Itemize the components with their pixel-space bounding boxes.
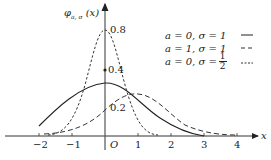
x-axis-label: x bbox=[261, 131, 267, 141]
chart-canvas bbox=[0, 0, 271, 160]
tick-label-m1: −1 bbox=[66, 140, 81, 150]
tick-label-3: 3 bbox=[201, 140, 207, 150]
legend-item-a0-s1: a = 0, σ = 1 bbox=[165, 29, 227, 42]
legend: a = 0, σ = 1 a = 1, σ = 1 a = 0, σ = 1 2 bbox=[165, 29, 227, 68]
tick-label-0-8: 0.8 bbox=[110, 25, 126, 35]
legend-item-a1-s1: a = 1, σ = 1 bbox=[165, 42, 227, 55]
curve-a1-s1 bbox=[44, 94, 237, 135]
curve-a0-s05 bbox=[48, 30, 158, 135]
tick-label-2: 2 bbox=[168, 140, 174, 150]
y-axis-label: φa, σ (x) bbox=[64, 8, 99, 20]
fraction-den: 2 bbox=[220, 62, 226, 71]
tick-label-m2: −2 bbox=[33, 140, 48, 150]
legend-row3-text: a = 0, σ = bbox=[165, 56, 217, 67]
tick-dot-0-4 bbox=[103, 68, 106, 71]
tick-label-0-4: 0.4 bbox=[108, 65, 124, 75]
legend-item-a0-s05: a = 0, σ = 1 2 bbox=[165, 55, 227, 68]
tick-label-0-2: 0.2 bbox=[110, 103, 126, 113]
tick-label-1: 1 bbox=[135, 140, 141, 150]
fraction: 1 2 bbox=[219, 52, 227, 71]
tick-label-4: 4 bbox=[234, 140, 240, 150]
origin-label: O bbox=[110, 140, 118, 150]
